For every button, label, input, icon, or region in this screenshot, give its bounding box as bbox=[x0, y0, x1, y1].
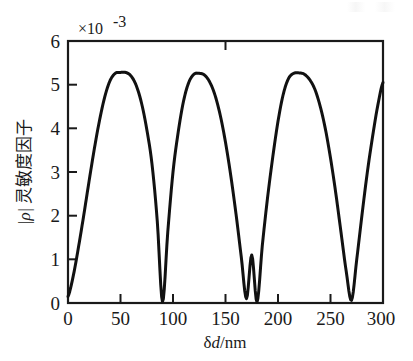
chart-figure: 0 1 2 3 4 5 6 0 50 100 150 200 250 300 ×… bbox=[0, 0, 413, 361]
y-axis-title: |ρ|灵敏度因子 bbox=[14, 119, 34, 226]
y-axis-title-cjk: 灵敏度因子 bbox=[14, 119, 34, 204]
y-multiplier-exponent: -3 bbox=[113, 13, 126, 30]
y-axis-title-symbol: |ρ| bbox=[15, 208, 34, 226]
y-tick-label-0: 0 bbox=[51, 293, 61, 314]
x-tick-label-250: 250 bbox=[316, 308, 345, 329]
y-tick-label-5: 5 bbox=[51, 74, 61, 95]
x-tick-label-50: 50 bbox=[111, 308, 130, 329]
x-axis-title-text: δd/nm bbox=[204, 333, 247, 352]
sensitivity-factor-line-chart: 0 1 2 3 4 5 6 0 50 100 150 200 250 300 ×… bbox=[0, 0, 413, 361]
y-tick-labels: 0 1 2 3 4 5 6 bbox=[51, 31, 61, 314]
y-axis-title-text: |ρ|灵敏度因子 bbox=[14, 119, 34, 226]
y-tick-label-4: 4 bbox=[51, 118, 61, 139]
y-tick-label-3: 3 bbox=[51, 162, 61, 183]
x-tick-label-150: 150 bbox=[211, 308, 240, 329]
x-axis-title: δd/nm bbox=[204, 333, 247, 352]
x-axis-title-delta: δ bbox=[204, 333, 212, 352]
x-axis-title-unit: /nm bbox=[220, 333, 246, 352]
x-tick-labels: 0 50 100 150 200 250 300 bbox=[63, 308, 395, 329]
y-tick-label-2: 2 bbox=[51, 205, 61, 226]
y-tick-label-6: 6 bbox=[51, 31, 61, 52]
plot-frame bbox=[68, 41, 383, 303]
y-axis-multiplier: ×10 -3 bbox=[78, 13, 126, 37]
x-tick-label-0: 0 bbox=[63, 308, 73, 329]
y-tick-label-1: 1 bbox=[51, 249, 61, 270]
y-multiplier-base: ×10 bbox=[78, 20, 103, 37]
x-tick-label-200: 200 bbox=[264, 308, 293, 329]
x-tick-label-300: 300 bbox=[367, 308, 396, 329]
x-tick-label-100: 100 bbox=[159, 308, 188, 329]
